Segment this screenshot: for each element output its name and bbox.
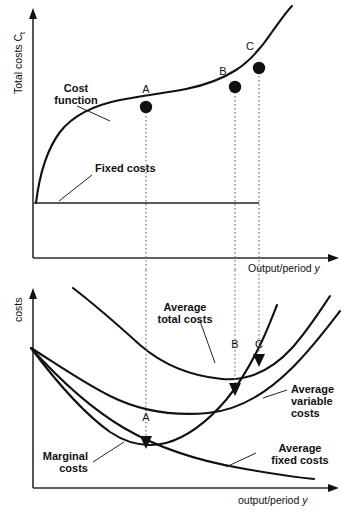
average-variable-costs-label-line1: Average [291,383,334,395]
point-a-top-label: A [142,83,150,95]
point-a-top-marker [140,101,152,113]
average-variable-costs-label-line3: costs [291,407,320,419]
average-total-costs-label-line1: Average [163,301,206,313]
average-total-costs-label-line2: total costs [157,313,212,325]
point-c-bottom-arrow-icon [253,354,265,367]
bottom-chart-panel: A B C costs output/period y Average tota… [12,270,340,506]
bottom-chart-x-axis [33,484,339,492]
top-y-axis-arrow-icon [29,8,37,19]
top-chart-y-axis [29,8,37,258]
fixed-costs-label: Fixed costs [95,162,156,174]
bottom-y-axis-arrow-icon [29,288,37,299]
average-fixed-costs-leader-line [226,453,256,467]
cost-function-label-line2: function [54,94,98,106]
marginal-costs-curve [31,305,277,445]
top-x-axis-arrow-icon [328,254,339,262]
fixed-costs-leader-line [59,175,92,201]
point-c-bottom-label: C [255,338,263,350]
cost-curves-svg: A B C Total costs Ct Output/period y Cos… [0,0,352,522]
point-a-bottom-label: A [142,411,150,423]
cost-function-label-line1: Cost [64,82,89,94]
average-variable-costs-leader-line [263,390,287,398]
average-fixed-costs-label-line1: Average [278,442,321,454]
cost-curves-figure: A B C Total costs Ct Output/period y Cos… [0,0,352,522]
point-c-top-marker [253,62,265,74]
marginal-costs-leader-line [93,442,124,462]
bottom-chart-y-axis [29,288,37,488]
bottom-chart-y-axis-label: costs [12,297,24,322]
average-total-costs-leader-line [200,321,215,363]
average-fixed-costs-label-line2: fixed costs [271,454,328,466]
top-chart-x-axis-label: Output/period y [248,262,321,274]
point-b-top-marker [229,81,241,93]
bottom-x-axis-arrow-icon [328,484,339,492]
point-b-top-label: B [219,65,226,77]
marginal-costs-label-line1: Marginal [43,450,88,462]
top-chart-y-axis-label: Total costs Ct [12,31,27,94]
bottom-chart-x-axis-label: output/period y [238,494,308,506]
average-variable-costs-label-line2: variable [291,395,333,407]
point-b-bottom-label: B [231,338,238,350]
point-c-top-label: C [246,40,254,52]
top-chart-x-axis [33,254,339,262]
marginal-costs-label-line2: costs [59,462,88,474]
top-chart-panel: A B C Total costs Ct Output/period y Cos… [12,6,339,274]
